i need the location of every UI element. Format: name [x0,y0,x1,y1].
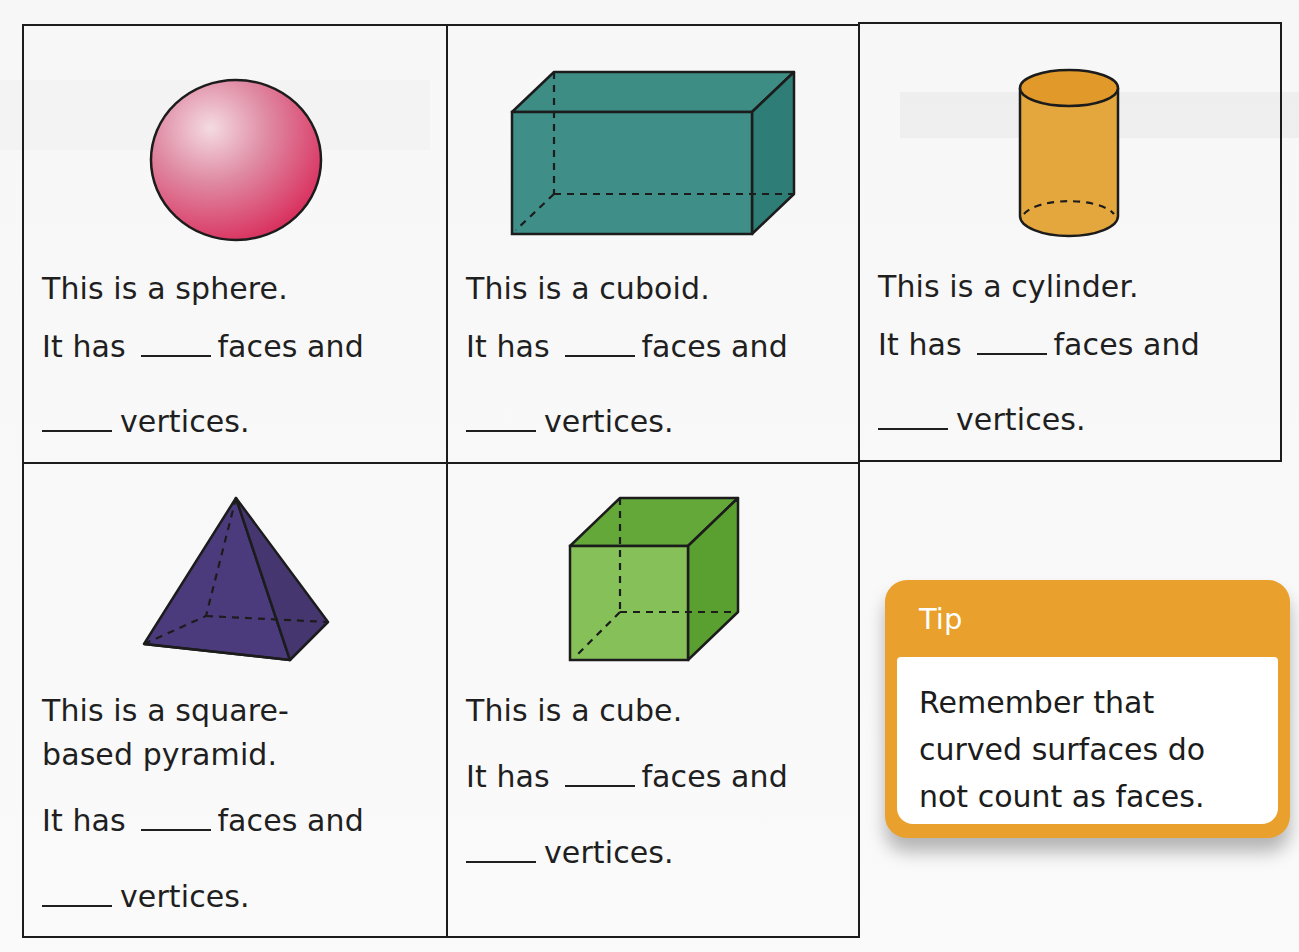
cell-text: This is a cube. It has faces and vertice… [466,696,788,868]
shape-cell-cylinder: This is a cylinder. It has faces and ver… [858,22,1282,462]
sphere-icon [148,78,324,242]
cell-text: This is a cylinder. It has faces and ver… [878,272,1200,435]
faces-blank[interactable] [141,829,211,831]
vertices-blank[interactable] [42,430,112,432]
vertices-line: vertices. [466,407,788,437]
shape-name-line: This is a cylinder. [878,272,1200,302]
shape-name-line: This is a cube. [466,696,788,726]
faces-blank[interactable] [977,353,1047,355]
tip-box: Tip Remember that curved surfaces do not… [885,580,1290,838]
cell-text: This is a sphere. It has faces and verti… [42,274,364,437]
vertices-line: vertices. [42,407,364,437]
vertices-blank[interactable] [878,428,948,430]
cell-text: This is a square- based pyramid. It has … [42,696,364,912]
tip-line: Remember that [919,679,1278,726]
faces-blank[interactable] [565,785,635,787]
cube-icon [566,494,746,664]
shape-name-line: This is a square- [42,696,364,726]
shape-cell-cuboid: This is a cuboid. It has faces and verti… [446,24,860,464]
faces-line: It has faces and [466,762,788,792]
cuboid-icon [508,68,798,240]
faces-line: It has faces and [878,330,1200,360]
vertices-blank[interactable] [42,905,112,907]
faces-blank[interactable] [565,355,635,357]
shape-cell-sphere: This is a sphere. It has faces and verti… [22,24,448,464]
vertices-blank[interactable] [466,430,536,432]
tip-body: Remember that curved surfaces do not cou… [897,657,1278,824]
faces-line: It has faces and [42,806,364,836]
shape-cell-cube: This is a cube. It has faces and vertice… [446,462,860,938]
tip-title: Tip [919,602,962,636]
vertices-line: vertices. [42,882,364,912]
shape-name-line-2: based pyramid. [42,740,364,770]
cell-text: This is a cuboid. It has faces and verti… [466,274,788,437]
tip-line: not count as faces. [919,773,1278,820]
vertices-line: vertices. [466,838,788,868]
vertices-line: vertices. [878,405,1200,435]
vertices-blank[interactable] [466,861,536,863]
cylinder-icon [1016,68,1122,240]
worksheet-page: This is a sphere. It has faces and verti… [0,0,1299,952]
shape-cell-pyramid: This is a square- based pyramid. It has … [22,462,448,938]
shape-name-line: This is a sphere. [42,274,364,304]
faces-blank[interactable] [141,355,211,357]
shape-name-line: This is a cuboid. [466,274,788,304]
pyramid-icon [140,494,332,664]
faces-line: It has faces and [42,332,364,362]
faces-line: It has faces and [466,332,788,362]
tip-line: curved surfaces do [919,726,1278,773]
